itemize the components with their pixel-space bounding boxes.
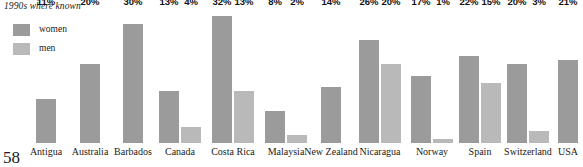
bar-rect-men: 20%	[381, 64, 401, 143]
bar-men: 2%	[287, 8, 307, 143]
bar-rect-men: 4%	[181, 127, 201, 143]
bar-group: 22%15%	[459, 8, 501, 143]
bar-value-label: 3%	[532, 0, 546, 6]
bar-value-label: 20%	[507, 0, 526, 6]
bar-value-label: 26%	[359, 0, 378, 6]
bar-women: 30%	[123, 8, 143, 143]
bar-group: 26%20%	[359, 8, 401, 143]
bar-rect-women: 8%	[265, 111, 285, 143]
bar-women: 26%	[359, 8, 379, 143]
bar-women: 20%	[80, 8, 100, 143]
bar-value-label: 32%	[212, 0, 231, 6]
bar-rect-men: 13%	[234, 91, 254, 143]
bar-men: 1%	[433, 8, 453, 143]
bar-value-label: 20%	[381, 0, 400, 6]
bar-value-label: 22%	[459, 0, 478, 6]
bar-value-label: 15%	[481, 0, 500, 6]
bar-rect-women: 21%	[558, 60, 578, 143]
bar-women: 32%	[212, 8, 232, 143]
bar-men: 13%	[234, 8, 254, 143]
bar-women: 17%	[411, 8, 431, 143]
bar-group: 32%13%	[212, 8, 254, 143]
bar-group: 11%	[36, 8, 56, 143]
bar-value-label: 17%	[411, 0, 430, 6]
bar-rect-women: 26%	[359, 40, 379, 143]
bar-group: 14%	[321, 8, 341, 143]
bar-men: 4%	[181, 8, 201, 143]
bar-rect-women: 14%	[321, 87, 341, 143]
bar-rect-men: 2%	[287, 135, 307, 143]
bar-value-label: 11%	[37, 0, 56, 6]
bar-group: 17%1%	[411, 8, 453, 143]
plot-area: 11%20%30%13%4%32%13%8%2%14%26%20%17%1%22…	[28, 8, 564, 143]
bar-value-label: 20%	[80, 0, 99, 6]
bar-group: 13%4%	[159, 8, 201, 143]
bar-value-label: 8%	[268, 0, 282, 6]
bar-rect-men: 1%	[433, 139, 453, 143]
bar-women: 11%	[36, 8, 56, 143]
bar-group: 20%	[80, 8, 100, 143]
bar-rect-women: 20%	[80, 64, 100, 143]
bar-value-label: 14%	[321, 0, 340, 6]
bar-rect-women: 13%	[159, 91, 179, 143]
category-axis: AntiguaAustraliaBarbadosCanadaCosta Rica…	[28, 146, 564, 164]
bar-value-label: 1%	[436, 0, 450, 6]
bar-group: 30%	[123, 8, 143, 143]
bar-women: 13%	[159, 8, 179, 143]
bar-rect-men: 15%	[481, 83, 501, 143]
bar-rect-women: 20%	[507, 64, 527, 143]
bar-rect-women: 32%	[212, 16, 232, 143]
bar-value-label: 13%	[159, 0, 178, 6]
bar-women: 21%	[558, 8, 578, 143]
bar-value-label: 30%	[123, 0, 142, 6]
bar-men: 3%	[529, 8, 549, 143]
bar-value-label: 21%	[558, 0, 577, 6]
bar-value-label: 13%	[234, 0, 253, 6]
bar-women: 14%	[321, 8, 341, 143]
bar-men: 15%	[481, 8, 501, 143]
bar-value-label: 2%	[290, 0, 304, 6]
bar-men: 20%	[381, 8, 401, 143]
bar-women: 8%	[265, 8, 285, 143]
bar-rect-women: 30%	[123, 24, 143, 143]
bar-women: 20%	[507, 8, 527, 143]
bar-rect-women: 11%	[36, 99, 56, 143]
bar-rect-women: 22%	[459, 56, 479, 143]
category-label: USA	[523, 146, 583, 158]
bar-women: 22%	[459, 8, 479, 143]
bar-group: 8%2%	[265, 8, 307, 143]
bar-rect-women: 17%	[411, 76, 431, 144]
bar-value-label: 4%	[184, 0, 198, 6]
bar-group: 20%3%	[507, 8, 549, 143]
bar-rect-men: 3%	[529, 131, 549, 143]
bar-group: 21%	[558, 8, 578, 143]
